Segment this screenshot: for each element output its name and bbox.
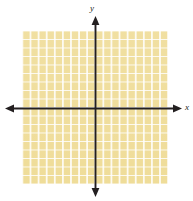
x-axis-left-arrowhead <box>5 105 14 113</box>
y-axis-bottom-arrowhead <box>92 188 100 197</box>
y-axis-top-arrowhead <box>92 16 100 25</box>
axes-layer <box>0 0 193 201</box>
x-axis-label: x <box>185 103 189 112</box>
x-axis-right-arrowhead <box>173 105 182 113</box>
y-axis-label: y <box>90 4 94 13</box>
coordinate-plane: y x <box>0 0 193 201</box>
